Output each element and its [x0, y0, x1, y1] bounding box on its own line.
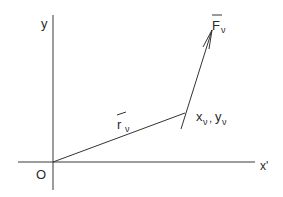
svg-text:r: r: [117, 117, 122, 132]
svg-text:x: x: [196, 109, 203, 124]
vector-arrow-icon: [117, 112, 126, 115]
y-axis-label: y: [41, 16, 48, 31]
vector-diagram: y x' O r ν F ν x ν , y ν: [0, 0, 283, 197]
svg-text:ν: ν: [221, 25, 226, 35]
point-coordinates-label: x ν , y ν: [196, 109, 227, 127]
force-vector-label: F ν: [212, 15, 226, 35]
svg-text:F: F: [212, 18, 220, 33]
svg-text:ν: ν: [125, 124, 130, 134]
origin-label: O: [36, 167, 46, 182]
x-axis-label: x': [260, 159, 268, 173]
force-arrowhead-icon: [203, 30, 212, 49]
svg-text:,: ,: [209, 112, 212, 124]
svg-text:y: y: [215, 109, 222, 124]
svg-text:ν: ν: [222, 117, 227, 127]
position-vector-label: r ν: [117, 112, 130, 134]
svg-text:ν: ν: [203, 117, 208, 127]
